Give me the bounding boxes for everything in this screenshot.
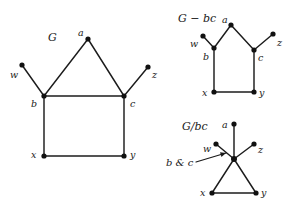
graph-g-contract-bc-canvas — [0, 0, 294, 216]
graph-edge-bcx — [212, 159, 234, 193]
graph-vertex-y — [253, 190, 258, 195]
graph-vertex-x — [209, 190, 214, 195]
graph-g-contract-bc-title: G/bc — [182, 121, 208, 132]
vertex-label-z: z — [258, 145, 263, 155]
vertex-label-a: a — [222, 120, 228, 130]
graph-vertex-a — [231, 121, 236, 126]
graph-figure: awzbcxyGawzbcxyG − bcawzxyG/bcb & c — [0, 0, 294, 216]
arrow-head-icon — [220, 152, 226, 157]
graph-vertex-z — [251, 141, 256, 146]
graph-vertex-bc — [231, 156, 237, 162]
graph-edge-zbc — [234, 144, 254, 159]
merged-vertex-label: b & c — [166, 158, 193, 168]
graph-vertex-w — [213, 141, 218, 146]
vertex-label-y: y — [261, 188, 266, 198]
graph-edge-bcy — [234, 159, 256, 193]
graph-g-contract-bc: awzxyG/bcb & c — [0, 0, 294, 216]
graph-edge-wbc — [216, 144, 234, 159]
vertex-label-x: x — [200, 188, 205, 198]
vertex-label-w: w — [203, 144, 211, 154]
